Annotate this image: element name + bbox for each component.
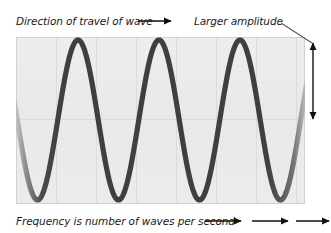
wave-diagram: Direction of travel of wave Larger ampli… <box>0 0 331 233</box>
frequency-label: Frequency is number of waves per second <box>16 215 235 227</box>
direction-label: Direction of travel of wave <box>16 15 153 27</box>
plot-panel <box>12 37 309 204</box>
amplitude-label: Larger amplitude <box>194 15 283 27</box>
diagram-canvas: Direction of travel of wave Larger ampli… <box>0 0 331 233</box>
